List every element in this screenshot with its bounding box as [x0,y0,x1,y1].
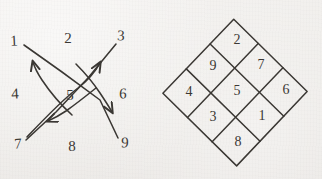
cell-label-3: 3 [117,28,125,43]
cell-label-4: 4 [11,86,19,101]
cell-label-2: 2 [64,31,72,46]
left-diagram: 1 2 3 4 5 6 7 8 9 [0,0,161,179]
magic-cell-4: 4 [186,85,193,99]
magic-cell-7: 7 [258,58,265,72]
magic-cell-2: 2 [234,33,241,47]
right-diagram: 4 9 2 3 5 7 8 1 6 [161,0,322,179]
cell-label-5: 5 [66,88,74,103]
magic-cell-6: 6 [283,83,290,97]
magic-cell-3: 3 [210,110,217,124]
magic-cell-5: 5 [234,84,241,98]
magic-cell-1: 1 [259,109,266,123]
cell-label-7: 7 [14,136,22,151]
cell-label-8: 8 [68,139,76,154]
cell-label-1: 1 [10,33,18,48]
cell-label-9: 9 [121,135,129,150]
magic-cell-8: 8 [235,135,242,149]
magic-cell-9: 9 [210,59,217,73]
arrow-overlay [0,0,161,179]
cell-label-6: 6 [119,86,127,101]
